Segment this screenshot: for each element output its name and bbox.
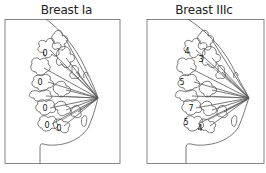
- panel-breast-iiic: Breast IIIc 4 3 5 7: [142, 0, 266, 173]
- node-count: 0: [37, 78, 42, 87]
- panel-breast-ia: Breast Ia 0 0: [0, 0, 133, 173]
- node-count: 4: [184, 47, 189, 56]
- node-count: 5: [179, 78, 184, 87]
- node-count: 0: [44, 121, 49, 130]
- node-count: 0: [56, 124, 61, 133]
- breast-diagram-iiic: 4 3 5 7 5 4: [142, 0, 266, 173]
- breast-diagram-ia: 0 0 0 0 0: [0, 0, 133, 173]
- node-count: 7: [188, 104, 193, 113]
- node-count: 0: [42, 104, 47, 113]
- node-count: 5: [183, 118, 188, 127]
- node-count: 3: [198, 55, 203, 64]
- node-count: 0: [42, 49, 47, 58]
- node-count: 4: [197, 124, 202, 133]
